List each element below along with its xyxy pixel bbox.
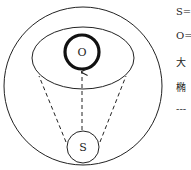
object-label: O: [77, 46, 86, 59]
perception-diagram: O S: [0, 0, 176, 170]
legend-item-dashed: ---: [176, 103, 186, 114]
legend-item-o: O=: [176, 30, 191, 41]
legend-item-ellipse: 椭: [176, 79, 186, 94]
legend-item-big: 大: [176, 54, 186, 69]
legend-item-s: S=: [176, 6, 191, 17]
subject-label: S: [79, 141, 87, 154]
